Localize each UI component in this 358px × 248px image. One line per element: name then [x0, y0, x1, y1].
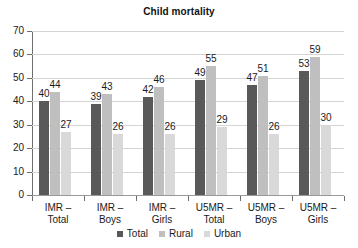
bar-group: 424626	[136, 31, 188, 195]
x-axis-label-line2: Total	[32, 214, 84, 226]
x-axis-label-line1: U5MR –	[300, 202, 337, 213]
bar-urban	[269, 134, 279, 195]
bar-rural	[50, 92, 60, 195]
bar-value-label: 46	[150, 75, 168, 85]
y-axis-tick-label: 0	[2, 190, 24, 200]
bar-group: 404427	[32, 31, 84, 195]
y-axis-tick-label: 50	[2, 73, 24, 83]
bar-rural	[258, 76, 268, 195]
bar-value-label: 26	[161, 122, 179, 132]
bar-value-label: 59	[306, 45, 324, 55]
bar-group: 394326	[84, 31, 136, 195]
x-axis-label-line1: IMR –	[45, 202, 72, 213]
x-axis-separator	[32, 196, 33, 201]
x-axis-category-label: IMR –Girls	[136, 202, 188, 226]
x-axis-label-line1: IMR –	[97, 202, 124, 213]
x-axis-separator	[292, 196, 293, 201]
bar-rural	[206, 66, 216, 195]
legend-label: Urban	[214, 229, 241, 239]
bar-group: 475126	[240, 31, 292, 195]
x-axis-separator	[136, 196, 137, 201]
bar-total	[143, 97, 153, 195]
x-axis-category-label: U5MR –Total	[188, 202, 240, 226]
legend-label: Rural	[169, 229, 193, 239]
x-axis-label-line1: IMR –	[149, 202, 176, 213]
bar-urban	[217, 127, 227, 195]
legend-item-rural[interactable]: Rural	[159, 229, 193, 239]
bar-value-label: 26	[265, 122, 283, 132]
bar-total	[91, 104, 101, 195]
y-axis-tick-label: 20	[2, 143, 24, 153]
bar-urban	[321, 125, 331, 195]
legend-swatch-icon	[117, 231, 123, 237]
x-axis-label-line2: Girls	[136, 214, 188, 226]
y-axis-tick-label: 40	[2, 96, 24, 106]
x-axis-label-line1: U5MR –	[248, 202, 285, 213]
bar-total	[195, 80, 205, 195]
bar-value-label: 29	[213, 115, 231, 125]
bar-value-label: 51	[254, 64, 272, 74]
x-axis-separator	[344, 196, 345, 201]
chart-title: Child mortality	[0, 6, 358, 17]
bar-total	[247, 85, 257, 195]
bar-rural	[154, 87, 164, 195]
y-axis-tick-label: 30	[2, 120, 24, 130]
bar-urban	[61, 132, 71, 195]
bar-urban	[165, 134, 175, 195]
bar-value-label: 55	[202, 54, 220, 64]
chart-legend: TotalRuralUrban	[0, 229, 358, 239]
y-axis-tick-label: 70	[2, 26, 24, 36]
x-axis-category-label: IMR –Boys	[84, 202, 136, 226]
legend-item-total[interactable]: Total	[117, 229, 148, 239]
x-axis-category-label: U5MR –Boys	[240, 202, 292, 226]
bar-rural	[310, 57, 320, 195]
x-axis-category-label: U5MR –Girls	[292, 202, 344, 226]
plot-area: 404427394326424626495529475126535930	[32, 31, 344, 195]
bar-value-label: 44	[46, 80, 64, 90]
chart-container: Child mortality 010203040506070 40442739…	[0, 0, 358, 248]
bar-value-label: 26	[109, 122, 127, 132]
y-axis-tick-label: 10	[2, 167, 24, 177]
x-axis-label-line2: Boys	[240, 214, 292, 226]
x-axis-separator	[240, 196, 241, 201]
x-axis-label-line2: Girls	[292, 214, 344, 226]
x-axis-label-line2: Boys	[84, 214, 136, 226]
x-axis-label-line2: Total	[188, 214, 240, 226]
bar-value-label: 43	[98, 82, 116, 92]
legend-swatch-icon	[204, 231, 210, 237]
bar-value-label: 27	[57, 120, 75, 130]
legend-item-urban[interactable]: Urban	[204, 229, 241, 239]
bar-group: 495529	[188, 31, 240, 195]
legend-swatch-icon	[159, 231, 165, 237]
bar-urban	[113, 134, 123, 195]
x-axis-separator	[188, 196, 189, 201]
bar-group: 535930	[292, 31, 344, 195]
legend-label: Total	[127, 229, 148, 239]
x-axis-separator	[84, 196, 85, 201]
y-axis-tick-label: 60	[2, 49, 24, 59]
x-axis-label-line1: U5MR –	[196, 202, 233, 213]
bar-value-label: 30	[317, 113, 335, 123]
x-axis-category-label: IMR –Total	[32, 202, 84, 226]
bar-total	[39, 101, 49, 195]
bar-rural	[102, 94, 112, 195]
bar-total	[299, 71, 309, 195]
